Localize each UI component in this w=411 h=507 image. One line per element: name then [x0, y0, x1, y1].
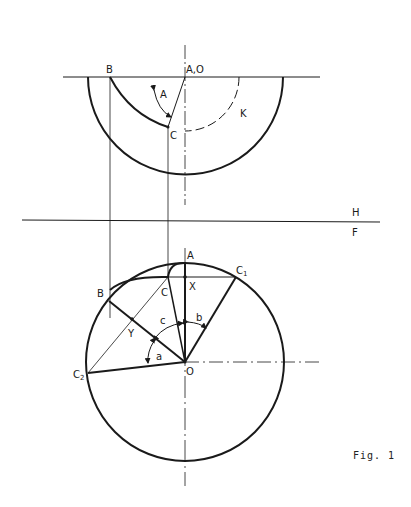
label-o: O [186, 366, 194, 377]
label-angle-a: A [160, 89, 167, 100]
line-c-ao [168, 77, 185, 127]
label-angle-a-front: a [156, 351, 162, 362]
arc-k [185, 77, 239, 131]
plane-separator: H F [22, 207, 380, 238]
label-c2: C2 [73, 369, 84, 382]
point-o [184, 361, 187, 364]
figure-caption: Fig. 1 [353, 450, 395, 461]
label-c-front: C [161, 287, 168, 298]
angle-a-arc [148, 341, 154, 363]
label-angle-c: c [160, 315, 166, 326]
label-c-top: C [170, 130, 177, 141]
label-b-front: B [97, 288, 104, 299]
point-x [183, 275, 187, 279]
line-o-b [109, 301, 185, 362]
label-y: Y [127, 328, 135, 339]
geometric-construction-diagram: B A,O A C K H F [0, 0, 411, 507]
label-b-top: B [106, 64, 113, 75]
label-angle-b: b [196, 312, 202, 323]
point-y [130, 317, 134, 321]
label-a-front: A [187, 250, 194, 261]
top-semicircle [88, 77, 283, 175]
label-a-o: A,O [186, 64, 204, 75]
label-h: H [352, 207, 360, 218]
label-k: K [240, 108, 247, 119]
label-x: X [189, 281, 196, 292]
line-o-c2 [88, 362, 185, 373]
label-f: F [352, 227, 358, 238]
curve-b-c [110, 77, 168, 127]
label-c1: C1 [236, 265, 247, 278]
hf-line [22, 220, 380, 222]
